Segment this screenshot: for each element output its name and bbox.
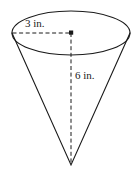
radius-label: 3 in.: [25, 18, 45, 29]
cone-figure: 3 in. 6 in.: [0, 0, 139, 173]
height-label: 6 in.: [75, 70, 95, 81]
center-point-dot: [69, 31, 73, 35]
cone-drawing: [0, 0, 139, 173]
